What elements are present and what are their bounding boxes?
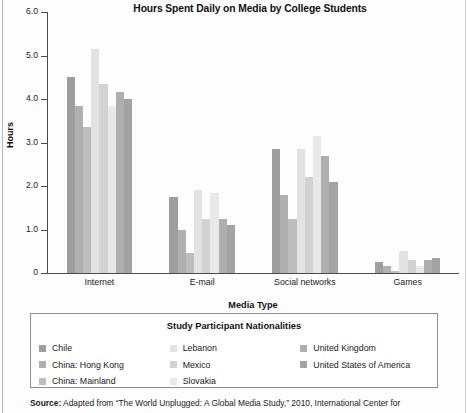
bar-group	[48, 12, 151, 273]
legend-label: United Kingdom	[313, 343, 376, 353]
bar	[99, 84, 107, 273]
y-tick	[41, 186, 48, 187]
y-tick	[41, 143, 48, 144]
legend-label: United States of America	[313, 360, 410, 370]
legend-swatch-icon	[170, 378, 177, 385]
y-tick	[41, 56, 48, 57]
bar	[416, 266, 424, 273]
bar	[75, 106, 83, 273]
bar	[321, 156, 329, 273]
bar	[383, 266, 391, 273]
bar	[91, 49, 99, 273]
legend-label: Slovakia	[183, 376, 216, 386]
legend-swatch-icon	[300, 345, 307, 352]
bar	[178, 230, 186, 274]
legend-swatch-icon	[39, 361, 46, 368]
bar	[288, 219, 296, 273]
bar	[305, 177, 313, 273]
source-label: Source:	[30, 398, 61, 408]
x-axis-line	[47, 273, 459, 274]
y-tick-label: 1.0	[4, 224, 38, 234]
source-note: Source: Adapted from “The World Unplugge…	[30, 398, 450, 413]
bar	[399, 251, 407, 273]
y-tick	[41, 230, 48, 231]
y-tick	[41, 99, 48, 100]
y-axis-title: Hours	[5, 105, 15, 165]
legend-item[interactable]: Lebanon	[170, 340, 301, 357]
legend-item[interactable]: China: Hong Kong	[39, 357, 170, 374]
legend-column: ChileChina: Hong KongChina: Mainland	[39, 340, 170, 390]
plot-area: Hours 01.02.03.04.05.06.0 InternetE-mail…	[0, 12, 467, 280]
y-tick-label: 5.0	[4, 50, 38, 60]
x-axis-title: Media Type	[47, 300, 459, 310]
bar	[108, 106, 116, 273]
bar	[83, 127, 91, 273]
x-tick-label: E-mail	[151, 277, 254, 287]
bar	[210, 193, 218, 273]
bar-groups: InternetE-mailSocial networksGames	[48, 12, 459, 273]
bar	[424, 260, 432, 273]
bar	[391, 271, 399, 273]
bar	[194, 190, 202, 273]
y-tick-label: 0	[4, 267, 38, 277]
bar-group	[356, 12, 459, 273]
legend-label: China: Mainland	[52, 376, 116, 386]
legend-columns: ChileChina: Hong KongChina: MainlandLeba…	[39, 340, 431, 390]
bar	[280, 195, 288, 273]
bar-group	[254, 12, 357, 273]
source-text: Adapted from “The World Unplugged: A Glo…	[61, 398, 400, 408]
bar	[375, 262, 383, 273]
bar	[202, 219, 210, 273]
legend-item[interactable]: Chile	[39, 340, 170, 357]
legend-column: United KingdomUnited States of America	[300, 340, 431, 390]
legend-item[interactable]: Slovakia	[170, 373, 301, 390]
legend-title: Study Participant Nationalities	[31, 321, 437, 331]
legend-swatch-icon	[39, 378, 46, 385]
bar	[186, 253, 194, 273]
bar	[67, 77, 75, 273]
legend-label: Chile	[52, 343, 72, 353]
y-tick-label: 3.0	[4, 137, 38, 147]
bar	[116, 92, 124, 273]
bar	[219, 219, 227, 273]
legend-swatch-icon	[170, 361, 177, 368]
y-tick	[41, 273, 48, 274]
y-tick	[41, 12, 48, 13]
legend-swatch-icon	[300, 361, 307, 368]
legend-label: China: Hong Kong	[52, 360, 124, 370]
bar	[408, 260, 416, 273]
bar	[169, 197, 177, 273]
bar	[124, 99, 132, 273]
legend-swatch-icon	[39, 345, 46, 352]
legend-label: Mexico	[183, 360, 211, 370]
y-tick-label: 4.0	[4, 93, 38, 103]
bar	[272, 149, 280, 273]
bar	[329, 182, 337, 273]
legend-column: LebanonMexicoSlovakia	[170, 340, 301, 390]
legend-label: Lebanon	[183, 343, 217, 353]
x-tick-label: Social networks	[254, 277, 357, 287]
chart-page: Hours Spent Daily on Media by College St…	[0, 0, 467, 413]
legend-item[interactable]: China: Mainland	[39, 373, 170, 390]
bar-group	[151, 12, 254, 273]
legend-item[interactable]: Mexico	[170, 357, 301, 374]
y-tick-label: 2.0	[4, 180, 38, 190]
legend-item[interactable]: United Kingdom	[300, 340, 431, 357]
bar	[313, 136, 321, 273]
bar	[297, 149, 305, 273]
bar	[227, 225, 235, 273]
legend: Study Participant Nationalities ChileChi…	[30, 313, 438, 388]
x-tick-label: Games	[356, 277, 459, 287]
bar	[432, 258, 440, 273]
y-tick-label: 6.0	[4, 6, 38, 16]
x-tick-label: Internet	[48, 277, 151, 287]
legend-swatch-icon	[170, 345, 177, 352]
legend-item[interactable]: United States of America	[300, 357, 431, 374]
